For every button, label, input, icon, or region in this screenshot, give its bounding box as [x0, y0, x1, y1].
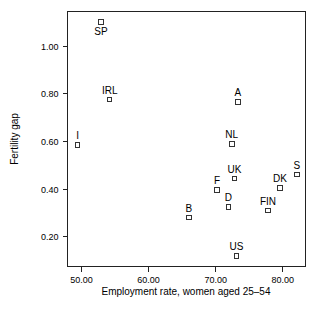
y-axis-title: Fertility gap [9, 113, 20, 165]
x-axis-title: Employment rate, women aged 25–54 [102, 286, 271, 297]
y-axis-tick-label: 0.80 [41, 89, 59, 99]
data-point-label: SP [94, 26, 108, 37]
data-point-label: B [186, 203, 193, 214]
data-point-label: F [214, 175, 220, 186]
data-point-marker [234, 254, 239, 259]
scatter-chart-figure: 50.0060.0070.0080.000.200.400.600.801.00… [0, 0, 324, 315]
data-point-label: A [234, 87, 241, 98]
y-axis-tick-label: 0.60 [41, 137, 59, 147]
data-point-label: NL [225, 129, 238, 140]
x-axis-tick-label: 70.00 [204, 275, 227, 285]
data-point-marker [187, 215, 192, 220]
data-point-label: S [293, 160, 300, 171]
x-axis-tick-label: 80.00 [271, 275, 294, 285]
data-point-label: US [229, 241, 243, 252]
x-axis-tick-label: 60.00 [137, 275, 160, 285]
data-point-label: D [225, 192, 232, 203]
plot-frame [68, 12, 306, 267]
y-axis-tick-label: 0.40 [41, 185, 59, 195]
data-point-marker [230, 142, 235, 147]
data-point-marker [75, 143, 80, 148]
tick-labels-group: 50.0060.0070.0080.000.200.400.600.801.00 [41, 42, 294, 285]
data-point-label: IRL [102, 85, 118, 96]
y-axis-tick-label: 1.00 [41, 42, 59, 52]
data-point-label: UK [227, 164, 241, 175]
plot-canvas: 50.0060.0070.0080.000.200.400.600.801.00… [0, 0, 324, 315]
data-points-group [75, 20, 299, 258]
data-point-label: I [76, 130, 79, 141]
y-axis-tick-label: 0.20 [41, 232, 59, 242]
data-point-marker [226, 205, 231, 210]
ticks-group [63, 46, 283, 271]
data-point-marker [107, 97, 112, 102]
data-point-marker [215, 188, 220, 193]
data-point-marker [266, 208, 271, 213]
x-axis-tick-label: 50.00 [70, 275, 93, 285]
data-point-marker [236, 100, 241, 105]
data-point-label: DK [273, 173, 287, 184]
data-point-marker [278, 186, 283, 191]
data-point-marker [295, 172, 300, 177]
data-point-labels-group: SPIRLIANLUKSDKFDFINBUS [76, 26, 300, 252]
data-point-label: FIN [260, 196, 276, 207]
axes-group [68, 12, 306, 267]
data-point-marker [232, 176, 237, 181]
data-point-marker [99, 20, 104, 25]
